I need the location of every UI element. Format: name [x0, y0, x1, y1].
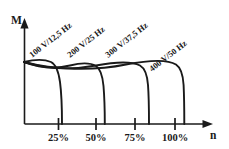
curve-100v-12-5hz — [24, 60, 62, 124]
curve-label-400v-50hz: 400 V/50 Hz — [147, 38, 189, 74]
torque-speed-characteristic-diagram: M n 25% 50% 75% 100% 100 V/12,5 Hz 200 V… — [0, 0, 229, 149]
x-tick-label-50: 50% — [86, 132, 107, 143]
y-axis-label: M — [11, 14, 22, 26]
x-tick-label-75: 75% — [125, 132, 146, 143]
x-tick-label-100: 100% — [162, 132, 188, 143]
curve-label-300v-37-5hz: 300 V/37,5 Hz — [103, 20, 150, 59]
x-tick-label-25: 25% — [48, 132, 69, 143]
curve-300v-37-5hz — [24, 62, 149, 124]
x-axis-arrow-icon — [203, 120, 214, 128]
x-axis-label: n — [210, 129, 217, 141]
curve-200v-25hz — [24, 62, 105, 124]
y-axis — [20, 18, 28, 124]
